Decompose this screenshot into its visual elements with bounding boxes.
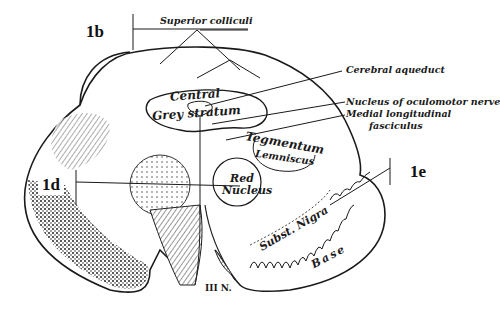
code-1b: 1b	[86, 22, 104, 42]
code-1d: 1d	[38, 175, 64, 195]
label-nucleus: Nucleus	[222, 184, 272, 197]
label-cerebral-aqueduct: Cerebral aqueduct	[346, 64, 445, 75]
left-crus-stipple	[28, 180, 148, 289]
label-mlf-line2: fasciculus	[369, 120, 423, 131]
label-third-nerve: III N.	[205, 283, 232, 293]
label-nucleus-oculomotor: Nucleus of oculomotor nerve	[346, 96, 500, 107]
label-superior-colliculi: Superior colliculi	[160, 15, 253, 26]
code-1e: 1e	[410, 162, 426, 182]
label-mlf-line1: Medial longitudinal	[346, 108, 451, 119]
